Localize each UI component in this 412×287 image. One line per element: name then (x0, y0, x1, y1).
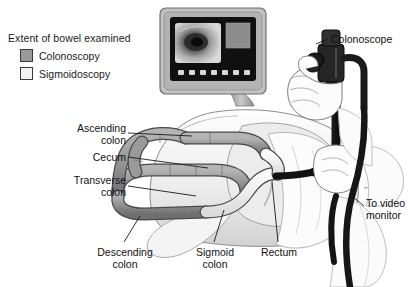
label-to-video-monitor-line2: monitor (366, 209, 401, 221)
illustration-canvas: Extent of bowel examined Colonoscopy Sig… (0, 0, 412, 287)
label-transverse-colon-line1: Transverse (74, 174, 126, 186)
legend-label-sigmoidoscopy: Sigmoidoscopy (39, 68, 110, 80)
label-ascending-colon: Ascending colon (48, 122, 126, 146)
label-descending-colon-line1: Descending (97, 246, 152, 258)
legend-label-colonoscopy: Colonoscopy (39, 50, 100, 62)
legend-title: Extent of bowel examined (8, 32, 131, 44)
legend: Extent of bowel examined Colonoscopy Sig… (8, 32, 131, 80)
legend-item-colonoscopy: Colonoscopy (20, 49, 131, 62)
label-to-video-monitor-line1: To video (366, 197, 405, 209)
label-colonoscope: Colonoscope (331, 33, 392, 45)
video-monitor (160, 8, 266, 106)
label-transverse-colon-line2: colon (101, 186, 126, 198)
label-sigmoid-colon-line2: colon (202, 258, 227, 270)
legend-item-sigmoidoscopy: Sigmoidoscopy (20, 67, 131, 80)
label-descending-colon-line2: colon (112, 258, 137, 270)
label-to-video-monitor: To video monitor (366, 197, 410, 221)
label-rectum: Rectum (253, 246, 305, 258)
legend-swatch-colonoscopy (20, 49, 33, 62)
label-cecum: Cecum (48, 151, 126, 163)
label-sigmoid-colon: Sigmoid colon (186, 246, 244, 270)
endoscopic-image (175, 23, 221, 63)
label-sigmoid-colon-line1: Sigmoid (196, 246, 234, 258)
legend-swatch-sigmoidoscopy (20, 67, 33, 80)
label-ascending-colon-line1: Ascending (77, 122, 126, 134)
label-transverse-colon: Transverse colon (22, 174, 126, 198)
label-ascending-colon-line2: colon (101, 134, 126, 146)
label-descending-colon: Descending colon (88, 246, 162, 270)
